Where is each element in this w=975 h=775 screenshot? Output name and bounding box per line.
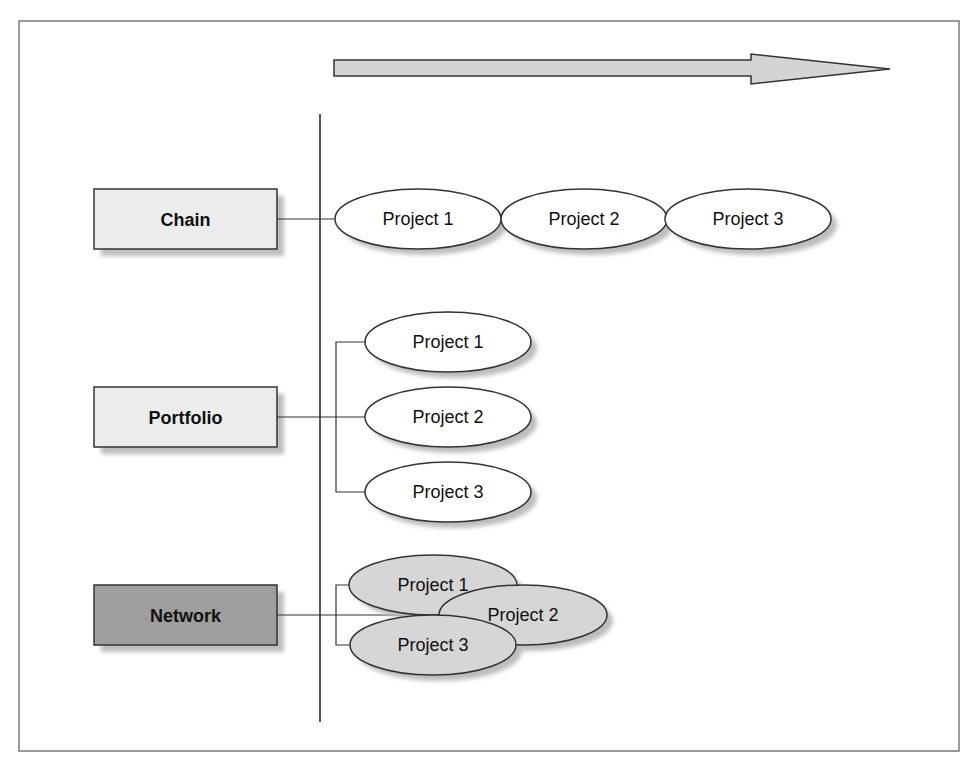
chain-project-1: Project 1 bbox=[335, 189, 501, 249]
chain-label: Chain bbox=[160, 210, 210, 230]
portfolio-project-2: Project 2 bbox=[365, 387, 531, 447]
row-chain: Chain Project 1 Project 2 Project 3 bbox=[94, 189, 837, 256]
portfolio-project-3: Project 3 bbox=[365, 462, 531, 522]
chain-project-2: Project 2 bbox=[501, 189, 667, 249]
chain-project-2-label: Project 2 bbox=[548, 209, 619, 229]
network-project-2-label: Project 2 bbox=[487, 605, 558, 625]
portfolio-project-3-label: Project 3 bbox=[412, 482, 483, 502]
chain-project-3: Project 3 bbox=[665, 189, 831, 249]
network-project-3: Project 3 bbox=[350, 615, 516, 675]
portfolio-project-1-label: Project 1 bbox=[412, 332, 483, 352]
chain-project-1-label: Project 1 bbox=[382, 209, 453, 229]
portfolio-project-2-label: Project 2 bbox=[412, 407, 483, 427]
portfolio-connectors bbox=[277, 342, 366, 492]
portfolio-label: Portfolio bbox=[149, 408, 223, 428]
portfolio-project-1: Project 1 bbox=[365, 312, 531, 372]
row-network: Network Project 1 Project 2 Project 3 bbox=[94, 555, 613, 681]
network-project-1-label: Project 1 bbox=[397, 575, 468, 595]
network-label: Network bbox=[150, 606, 222, 626]
row-portfolio: Portfolio Project 1 Project 2 Project 3 bbox=[94, 312, 537, 528]
chain-project-3-label: Project 3 bbox=[712, 209, 783, 229]
timeline-arrow bbox=[334, 54, 890, 84]
network-project-3-label: Project 3 bbox=[397, 635, 468, 655]
